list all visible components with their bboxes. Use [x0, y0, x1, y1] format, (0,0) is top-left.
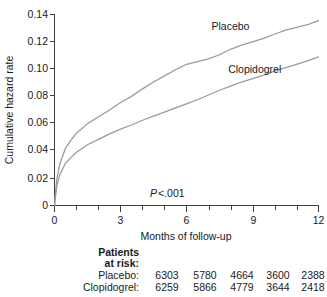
risk-value: 6259: [155, 281, 179, 293]
x-tick-label: 3: [118, 214, 124, 226]
p-value-text: <.001: [158, 187, 185, 199]
y-axis-ticks: [50, 15, 55, 206]
x-tick-label: 9: [251, 214, 257, 226]
cumulative-hazard-chart: Cumulative hazard rate 0.14 0.12 0.10 0.…: [0, 0, 327, 297]
risk-value: 2388: [301, 269, 325, 281]
y-tick-label: 0.14: [28, 8, 49, 20]
risk-value: 6303: [155, 269, 179, 281]
y-axis-title: Cumulative hazard rate: [3, 56, 15, 165]
risk-value: 3644: [266, 281, 290, 293]
risk-value: 4779: [230, 281, 254, 293]
x-axis-title: Months of follow-up: [140, 230, 231, 242]
patients-at-risk-table: Patients at risk: Placebo: 6303 5780 466…: [83, 246, 325, 293]
risk-row-label-placebo: Placebo:: [98, 269, 139, 281]
risk-value: 2418: [301, 281, 325, 293]
risk-row-label-clopidogrel: Clopidogrel:: [83, 281, 139, 293]
y-tick-label: 0.12: [28, 35, 49, 47]
risk-value: 4664: [230, 269, 254, 281]
y-tick-label: 0.02: [28, 172, 49, 184]
x-tick-label: 0: [52, 214, 58, 226]
x-tick-label: 6: [184, 214, 190, 226]
risk-value: 3600: [266, 269, 290, 281]
risk-value: 5780: [193, 269, 217, 281]
risk-value: 5866: [193, 281, 217, 293]
x-axis-ticks: [55, 206, 319, 213]
risk-table-heading-line2: at risk:: [105, 257, 139, 269]
placebo-series-label: Placebo: [212, 20, 250, 32]
y-tick-label: 0.04: [28, 143, 49, 155]
kaplan-meier-figure: Cumulative hazard rate 0.14 0.12 0.10 0.…: [0, 0, 327, 297]
y-tick-labels: 0.14 0.12 0.10 0.08 0.06 0.04 0.02 0: [28, 8, 49, 211]
clopidogrel-curve: [55, 57, 319, 206]
clopidogrel-series-label: Clopidogrel: [228, 63, 281, 75]
p-value-annotation: P <.001: [150, 187, 185, 199]
y-tick-label: 0.10: [28, 62, 49, 74]
y-tick-label: 0.06: [28, 116, 49, 128]
y-tick-label: 0: [42, 199, 48, 211]
y-tick-label: 0.08: [28, 89, 49, 101]
x-tick-label: 12: [313, 214, 325, 226]
x-tick-labels: 0 3 6 9 12: [52, 214, 325, 226]
placebo-curve: [55, 21, 319, 206]
p-value-symbol: P: [150, 187, 157, 199]
